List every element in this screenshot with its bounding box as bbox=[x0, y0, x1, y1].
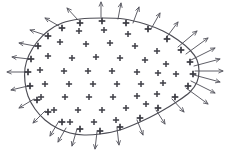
gaussian-surface-figure: Gaussian surface with enclosed positive … bbox=[0, 0, 231, 166]
figure-canvas bbox=[0, 0, 231, 166]
